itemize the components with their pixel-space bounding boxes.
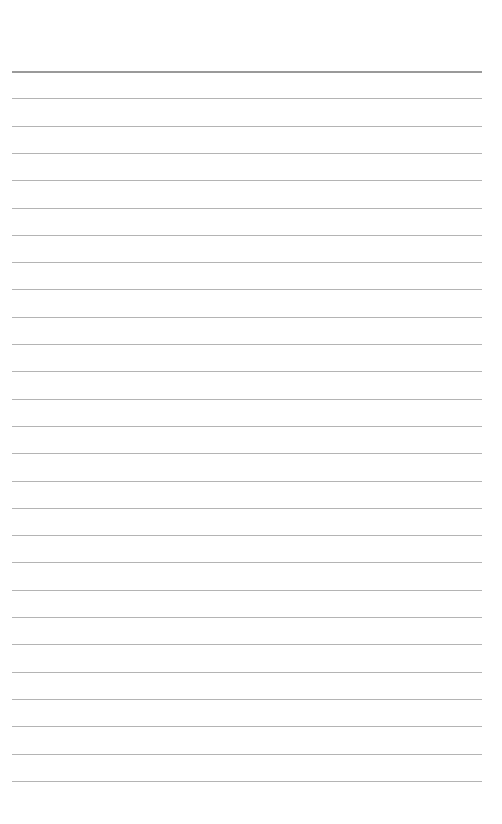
- rule-line: [12, 481, 482, 482]
- rule-line: [12, 726, 482, 727]
- rule-line: [12, 617, 482, 618]
- rule-line: [12, 153, 482, 154]
- rule-line: [12, 453, 482, 454]
- rule-line: [12, 781, 482, 782]
- rule-line: [12, 317, 482, 318]
- rule-line: [12, 672, 482, 673]
- rule-line: [12, 371, 482, 372]
- rule-line: [12, 644, 482, 645]
- rule-line: [12, 426, 482, 427]
- rule-line: [12, 562, 482, 563]
- rule-line: [12, 699, 482, 700]
- rule-line: [12, 535, 482, 536]
- rule-line: [12, 590, 482, 591]
- rule-line: [12, 208, 482, 209]
- rule-line: [12, 126, 482, 127]
- rule-line: [12, 98, 482, 99]
- lined-paper-page: [0, 0, 502, 824]
- header-rule-line: [12, 71, 482, 73]
- rule-line: [12, 754, 482, 755]
- rule-line: [12, 344, 482, 345]
- rule-line: [12, 508, 482, 509]
- rule-line: [12, 399, 482, 400]
- rule-line: [12, 289, 482, 290]
- rule-line: [12, 180, 482, 181]
- rule-line: [12, 235, 482, 236]
- rule-line: [12, 262, 482, 263]
